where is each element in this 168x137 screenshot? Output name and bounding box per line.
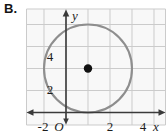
figure-container: B. xyxy=(0,0,168,137)
x-tick-label-neg2: -2 xyxy=(38,119,49,134)
coordinate-graph: 4 2 -2 2 4 O y x xyxy=(0,0,168,137)
center-point-marker xyxy=(84,64,92,72)
origin-label: O xyxy=(54,119,64,134)
x-tick-label-4: 4 xyxy=(140,119,147,134)
x-tick-label-2: 2 xyxy=(107,119,114,134)
grid-panel-background xyxy=(27,9,166,125)
y-tick-label-4: 4 xyxy=(47,49,54,64)
y-axis-name-label: y xyxy=(70,8,78,23)
y-tick-label-2: 2 xyxy=(47,82,54,97)
x-axis-name-label: x xyxy=(152,119,159,134)
